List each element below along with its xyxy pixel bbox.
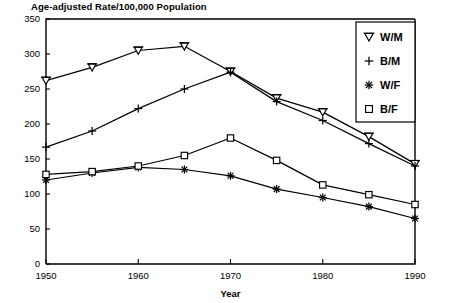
y-axis-tick-label: 250 <box>24 83 40 94</box>
chart-legend: W/MB/MW/FB/F <box>356 22 415 122</box>
x-axis-tick-group: 19501960197019801990 <box>35 259 425 281</box>
x-axis-tick-label: 1990 <box>404 270 425 281</box>
data-point-marker <box>227 135 233 141</box>
data-point-marker <box>320 182 326 188</box>
x-axis-tick-label: 1960 <box>128 270 149 281</box>
data-point-marker <box>43 171 49 177</box>
data-point-marker <box>135 163 141 169</box>
series-b-f <box>43 135 418 208</box>
y-axis-tick-label: 150 <box>24 153 40 164</box>
data-point-marker <box>319 109 327 116</box>
x-axis-tick-label: 1950 <box>35 270 56 281</box>
y-axis-tick-label: 100 <box>24 188 40 199</box>
chart-container: Age-adjusted Rate/100,000 Population 050… <box>0 0 453 303</box>
data-point-marker <box>181 152 187 158</box>
legend-item-label: B/F <box>380 103 398 115</box>
legend-item-w-m: W/M <box>364 31 403 43</box>
y-axis-tick-label: 50 <box>29 223 40 234</box>
legend-item-label: W/M <box>380 31 403 43</box>
y-axis-tick-label: 200 <box>24 118 40 129</box>
y-axis-tick-label: 0 <box>35 258 40 269</box>
legend-item-label: B/M <box>380 55 400 67</box>
data-point-marker <box>273 157 279 163</box>
data-point-marker <box>366 192 372 198</box>
data-point-marker <box>89 168 95 174</box>
y-axis-tick-label: 300 <box>24 48 40 59</box>
data-point-marker <box>366 106 373 113</box>
x-axis-tick-label: 1980 <box>312 270 333 281</box>
series-polyline <box>46 138 415 205</box>
x-axis-title: Year <box>220 288 240 299</box>
x-axis-tick-label: 1970 <box>220 270 241 281</box>
y-axis-tick-label: 350 <box>24 13 40 24</box>
legend-item-label: W/F <box>380 79 400 91</box>
data-point-marker <box>42 77 50 84</box>
chart-plot-area: 050100150200250300350 195019601970198019… <box>0 0 453 303</box>
data-point-marker <box>365 133 373 140</box>
data-point-marker <box>412 201 418 207</box>
